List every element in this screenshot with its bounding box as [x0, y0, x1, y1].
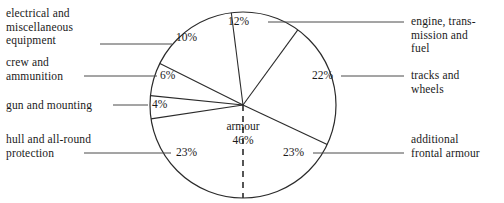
label-hull-and-all-round-protection: hull and all-round protection — [6, 133, 118, 160]
percent-tracks-and-wheels: 22% — [312, 69, 333, 82]
percent-additional-frontal-armour: 23% — [283, 146, 304, 159]
percent-engine-transmission-and-fuel: 12% — [228, 15, 249, 28]
percent-crew-and-ammunition: 6% — [160, 69, 175, 82]
label-electrical-and-miscellaneous-equipment: electrical and miscellaneous equipment — [6, 7, 102, 48]
percent-gun-and-mounting: 4% — [152, 98, 167, 111]
label-additional-frontal-armour: additional frontal armour — [411, 133, 503, 160]
label-gun-and-mounting: gun and mounting — [6, 99, 116, 113]
armour-label: armour — [203, 119, 283, 133]
percent-electrical-and-miscellaneous-equipment: 10% — [176, 31, 197, 44]
label-engine-transmission-and-fuel: engine, trans- mission and fuel — [411, 15, 503, 56]
percent-hull-and-all-round-protection: 23% — [176, 146, 197, 159]
label-crew-and-ammunition: crew and ammunition — [6, 56, 102, 83]
label-tracks-and-wheels: tracks and wheels — [411, 69, 499, 96]
pie-chart-figure: electrical and miscellaneous equipment c… — [0, 0, 504, 203]
armour-percent: 46% — [203, 133, 283, 147]
